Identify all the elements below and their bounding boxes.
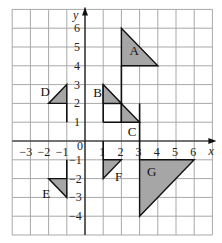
y-tick-label: −2 [69, 172, 82, 186]
x-tick-label: 5 [172, 145, 178, 159]
origin-label: 0 [77, 139, 83, 153]
coordinate-grid-diagram: ABCDEFGxy0−3−2−1123456654321−1−2−3−4 [0, 0, 222, 243]
x-tick-label: 3 [136, 145, 142, 159]
triangle-c [121, 103, 139, 122]
shape-label-g: G [147, 164, 156, 179]
shape-label-a: A [130, 43, 140, 58]
x-axis-label: x [207, 144, 214, 158]
y-tick-label: −4 [69, 209, 82, 223]
y-tick-label: 3 [74, 78, 80, 92]
x-tick-label: 6 [190, 145, 196, 159]
x-tick-label: −1 [56, 145, 69, 159]
y-tick-label: 2 [74, 96, 80, 110]
x-tick-label: 1 [99, 145, 105, 159]
y-axis-arrow-icon [82, 7, 88, 15]
y-tick-label: 4 [74, 59, 80, 73]
y-tick-label: 1 [74, 115, 80, 129]
triangle-e [49, 179, 67, 198]
shape-label-d: D [40, 84, 49, 99]
shape-label-c: C [128, 124, 137, 139]
shape-label-b: B [93, 85, 102, 100]
y-tick-label: 6 [74, 21, 80, 35]
triangle-b [103, 85, 121, 104]
triangle-d [49, 85, 67, 104]
x-tick-label: −3 [19, 145, 32, 159]
x-tick-label: 4 [154, 145, 160, 159]
shape-label-f: F [115, 169, 122, 184]
y-tick-label: −3 [69, 190, 82, 204]
y-tick-label: −1 [69, 153, 82, 167]
y-tick-label: 5 [74, 40, 80, 54]
shape-label-e: E [42, 186, 50, 201]
x-tick-label: 2 [117, 145, 123, 159]
x-tick-label: −2 [38, 145, 51, 159]
